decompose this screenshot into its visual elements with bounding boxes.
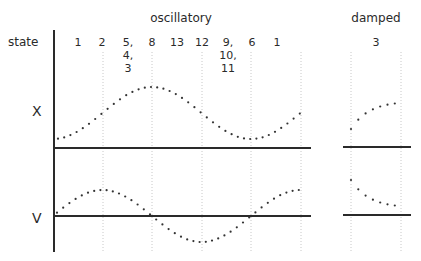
x-curve-damped xyxy=(350,102,396,130)
x-curve xyxy=(57,86,301,140)
plot-label-x: X xyxy=(32,103,42,119)
state-label: 2 xyxy=(99,36,106,49)
state-diagram: oscillatory damped state X V 125,4,38131… xyxy=(0,0,421,261)
state-label: 11 xyxy=(221,62,235,75)
section-title-damped: damped xyxy=(351,11,400,25)
state-label: 1 xyxy=(75,36,82,49)
state-label: 13 xyxy=(170,36,184,49)
state-labels: 125,4,3813129,10,11613 xyxy=(75,36,380,75)
state-label: 3 xyxy=(125,62,132,75)
state-label: 12 xyxy=(195,36,209,49)
state-label: 9, xyxy=(223,36,234,49)
state-label: 8 xyxy=(149,36,156,49)
plot-label-v: V xyxy=(32,210,42,226)
row-label-state: state xyxy=(8,35,38,49)
section-title-oscillatory: oscillatory xyxy=(150,11,212,25)
gridlines xyxy=(103,52,401,252)
state-label: 6 xyxy=(249,36,256,49)
state-label: 1 xyxy=(274,36,281,49)
state-label: 5, xyxy=(123,36,134,49)
state-label: 4, xyxy=(123,49,134,62)
state-label: 3 xyxy=(373,36,380,49)
v-curve-damped xyxy=(350,179,396,207)
state-label: 10, xyxy=(219,49,237,62)
